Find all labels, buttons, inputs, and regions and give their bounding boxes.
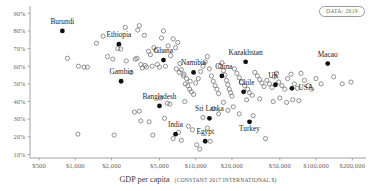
data-point-highlighted [219, 74, 224, 79]
data-point [299, 71, 303, 75]
data-point [142, 33, 146, 37]
data-point [237, 112, 241, 116]
data-point [137, 24, 141, 28]
data-point [247, 91, 251, 95]
y-tick-label: 80% [13, 27, 26, 34]
data-point [101, 34, 105, 38]
data-point [163, 64, 167, 68]
plot-canvas: 10%20%30%40%50%60%70%80%90% $500$1,000$2… [0, 0, 371, 191]
y-tick-label: 70% [13, 45, 26, 52]
data-point-highlighted [243, 59, 248, 64]
data-point [314, 76, 318, 80]
data-point-highlighted [60, 29, 65, 34]
data-point [263, 136, 267, 140]
y-tick-label: 20% [13, 133, 26, 140]
y-tick-label: 30% [13, 115, 26, 122]
y-tick-label: 60% [13, 63, 26, 70]
data-point [207, 67, 211, 71]
data-point-highlighted [207, 116, 212, 121]
data-point [94, 41, 98, 45]
data-point [112, 133, 116, 137]
data-point-label: Namibia [181, 58, 207, 67]
data-point-label: Egypt [197, 127, 214, 136]
data-point [278, 96, 282, 100]
data-point [132, 110, 136, 114]
data-point-label: Ghana [154, 46, 174, 55]
data-point [188, 79, 192, 83]
data-point [161, 29, 165, 33]
data-point [235, 71, 239, 75]
data-point-label: Sri Lanka [195, 104, 224, 113]
data-point-label: UK [268, 71, 279, 80]
data-point-highlighted [173, 132, 178, 137]
data-point-label: India [168, 120, 184, 129]
data-point [226, 108, 230, 112]
data-point-label: Turkey [239, 124, 260, 133]
data-point-label: Bangladesh [142, 92, 176, 101]
data-point-label: Gambia [110, 67, 134, 76]
data-point [199, 69, 203, 73]
data-point [183, 99, 187, 103]
data-point [262, 84, 266, 88]
data-point [111, 57, 115, 61]
data-point [168, 102, 172, 106]
data-point [258, 97, 262, 101]
data-point [280, 84, 284, 88]
data-point [173, 46, 177, 50]
data-point [289, 72, 293, 76]
data-point [340, 82, 344, 86]
data-point-labels: BurundiEthiopiaGhanaGambiaNamibiaKazakhs… [50, 17, 338, 136]
data-point [186, 124, 190, 128]
data-point [76, 64, 80, 68]
data-point [208, 139, 212, 143]
data-point [123, 25, 127, 29]
data-point [209, 74, 213, 78]
x-tick-label: $10,000 [185, 162, 208, 169]
data-point [171, 37, 175, 41]
x-tick-label: $20,000 [221, 162, 244, 169]
data-point [232, 67, 236, 71]
data-point [211, 79, 215, 83]
data-point-label: China [215, 62, 233, 71]
data-point [224, 78, 228, 82]
data-point-label: Kazakhstan [229, 48, 263, 57]
data-point-highlighted [203, 139, 208, 144]
data-point-highlighted [119, 79, 124, 84]
data-point [171, 136, 175, 140]
x-axis-title: GDP per capita(CONSTANT 2017 INTERNATION… [119, 175, 276, 184]
y-axis: 10%20%30%40%50%60%70%80%90% [13, 6, 30, 158]
data-point [136, 28, 140, 32]
data-point-highlighted [241, 89, 246, 94]
x-tick-label: $5,000 [150, 162, 169, 169]
x-tick-label: $200,000 [340, 162, 366, 169]
data-point-highlighted [273, 82, 278, 87]
data-point [291, 98, 295, 102]
data-point [194, 81, 198, 85]
data-point [139, 119, 143, 123]
data-point [174, 67, 178, 71]
data-point-highlighted [290, 86, 295, 91]
data-point-highlighted [191, 70, 196, 75]
y-tick-label: 10% [13, 151, 26, 158]
data-point [250, 93, 254, 97]
y-tick-label: 40% [13, 98, 26, 105]
data-point [191, 92, 195, 96]
data-point [124, 59, 128, 63]
x-tick-label: $1,000 [66, 162, 85, 169]
data-point [105, 54, 109, 58]
data-point [162, 116, 166, 120]
data-point [195, 143, 199, 147]
data-point [215, 87, 219, 91]
data-point [285, 100, 289, 104]
data-year-badge: DATA: 2019 [319, 6, 365, 17]
data-point-highlighted [325, 61, 330, 66]
data-point-label: Chile [239, 78, 255, 87]
data-point-highlighted [116, 42, 121, 47]
x-tick-label: $500 [32, 162, 46, 169]
data-point [198, 147, 202, 151]
y-tick-label: 90% [13, 10, 26, 17]
data-point [151, 133, 155, 137]
data-point [137, 109, 141, 113]
x-tick-label: $2,000 [102, 162, 121, 169]
x-axis-title-main: GDP per capita(CONSTANT 2017 INTERNATION… [119, 175, 276, 184]
